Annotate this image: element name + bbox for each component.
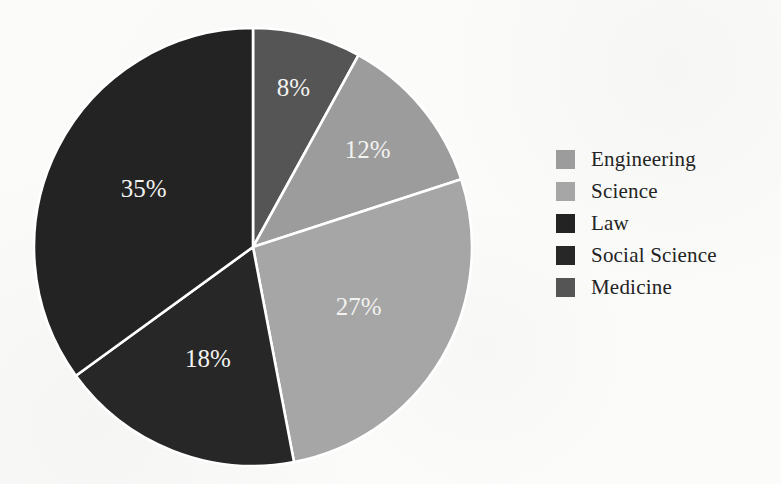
legend-swatch-icon: [556, 246, 575, 265]
legend-swatch-icon: [556, 214, 575, 233]
legend-item-social-science[interactable]: Social Science: [556, 239, 771, 271]
legend-item-law[interactable]: Law: [556, 207, 771, 239]
legend-item-engineering[interactable]: Engineering: [556, 143, 771, 175]
pie-slice-value-social-science: 18%: [185, 345, 231, 372]
legend-swatch-icon: [556, 278, 575, 297]
pie-chart-svg: 8%12%27%18%35%: [33, 27, 473, 467]
legend-item-label: Social Science: [591, 245, 717, 266]
legend-swatch-icon: [556, 182, 575, 201]
legend-item-medicine[interactable]: Medicine: [556, 271, 771, 303]
legend-swatch-icon: [556, 150, 575, 169]
legend-item-label: Law: [591, 213, 629, 234]
pie-chart-figure: 8%12%27%18%35% EngineeringScienceLawSoci…: [0, 0, 781, 484]
pie-slice-value-law: 35%: [121, 175, 167, 202]
chart-legend: EngineeringScienceLawSocial ScienceMedic…: [556, 143, 771, 303]
pie-slice-group: [34, 28, 472, 466]
legend-item-science[interactable]: Science: [556, 175, 771, 207]
pie-slice-value-engineering: 12%: [345, 136, 391, 163]
pie-chart-plot-area: 8%12%27%18%35%: [33, 27, 473, 467]
pie-slice-value-science: 27%: [336, 293, 382, 320]
pie-slice-value-medicine: 8%: [277, 74, 310, 101]
legend-item-label: Medicine: [591, 277, 672, 298]
legend-item-label: Science: [591, 181, 658, 202]
legend-item-label: Engineering: [591, 149, 696, 170]
